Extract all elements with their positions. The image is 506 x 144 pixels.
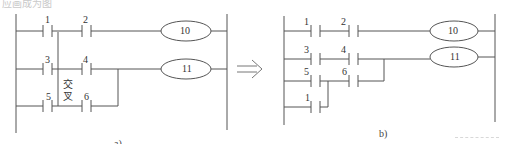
contact-6-label: 6 bbox=[84, 92, 89, 102]
contact-b-3-label: 3 bbox=[304, 45, 309, 55]
coil-b-10-label: 10 bbox=[448, 26, 458, 36]
contact-2-label: 2 bbox=[83, 15, 88, 25]
coil-10-label: 10 bbox=[180, 26, 190, 36]
coil-11-label: 11 bbox=[182, 64, 192, 74]
contact-b-2-label: 2 bbox=[341, 17, 346, 27]
contact-4-label: 4 bbox=[83, 55, 88, 65]
conversion-arrow-icon bbox=[237, 60, 262, 78]
contact-5-label: 5 bbox=[46, 92, 51, 102]
contact-b-4-label: 4 bbox=[341, 45, 346, 55]
contact-b-1b-label: 1 bbox=[305, 93, 310, 103]
contact-b-1-label: 1 bbox=[304, 17, 309, 27]
diagram-a bbox=[16, 14, 227, 133]
dotted-divider bbox=[455, 137, 499, 138]
rung-b-2 bbox=[284, 47, 495, 67]
cross-label-2: 叉 bbox=[63, 91, 73, 102]
diagram-b bbox=[284, 14, 495, 125]
contact-2 bbox=[82, 25, 91, 37]
contact-1-label: 1 bbox=[45, 15, 50, 25]
contact-1 bbox=[43, 25, 52, 37]
contact-b-5-label: 5 bbox=[304, 67, 309, 77]
coil-b-11-label: 11 bbox=[450, 52, 460, 62]
diagram-a-caption: a) bbox=[114, 138, 122, 144]
rung-b-3 bbox=[284, 59, 384, 87]
contact-3-label: 3 bbox=[45, 55, 50, 65]
diagram-b-caption: b) bbox=[379, 128, 387, 139]
cross-label-1: 交 bbox=[63, 79, 73, 90]
rung-b-1 bbox=[284, 21, 495, 41]
contact-b-6-label: 6 bbox=[342, 67, 347, 77]
ladder-diagrams bbox=[0, 0, 506, 144]
